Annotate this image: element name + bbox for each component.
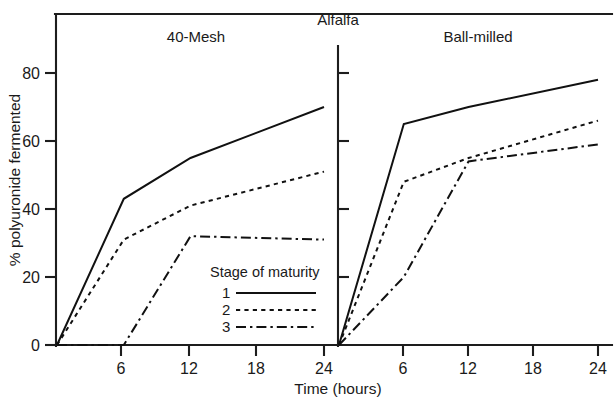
chart-figure: 0 20 40 60 80 6 12 18 24: [0, 0, 614, 397]
left-panel-x-tick-labels: 6 12 18 24: [117, 360, 333, 377]
x-tick-label-6-right: 6: [399, 360, 408, 377]
left-panel-x-ticks: [121, 345, 324, 356]
series-1-40mesh-solid: [57, 107, 324, 345]
y-tick-label-60: 60: [22, 133, 40, 150]
right-panel-series: [339, 80, 598, 345]
panel-title-40-mesh: 40-Mesh: [167, 28, 225, 45]
right-panel-x-ticks: [403, 345, 598, 356]
legend-label-1: 1: [222, 284, 230, 301]
x-tick-label-24-left: 24: [315, 360, 333, 377]
line-chart-svg: 0 20 40 60 80 6 12 18 24: [0, 0, 614, 397]
y-tick-label-20: 20: [22, 269, 40, 286]
series-3-ballmilled-dashdot: [339, 144, 598, 345]
legend-item-1[interactable]: 1: [222, 284, 316, 301]
x-tick-label-6-left: 6: [117, 360, 126, 377]
x-axis-title: Time (hours): [294, 380, 381, 397]
group-title-alfalfa: Alfalfa: [317, 11, 359, 28]
right-panel-y-ticks: [338, 73, 349, 277]
y-tick-label-40: 40: [22, 201, 40, 218]
legend-title: Stage of maturity: [210, 264, 320, 280]
panel-title-ball-milled: Ball-milled: [443, 28, 512, 45]
x-tick-label-24-right: 24: [589, 360, 607, 377]
x-tick-label-12-left: 12: [180, 360, 198, 377]
legend-label-2: 2: [222, 301, 230, 318]
left-panel-y-ticks: [45, 73, 56, 345]
left-panel-series: [57, 107, 324, 345]
legend-item-3[interactable]: 3: [222, 318, 316, 335]
series-2-ballmilled-dotted: [339, 121, 598, 345]
y-tick-label-0: 0: [31, 337, 40, 354]
x-tick-label-18-right: 18: [524, 360, 542, 377]
legend-label-3: 3: [222, 318, 230, 335]
x-tick-label-18-left: 18: [247, 360, 265, 377]
x-tick-label-12-right: 12: [459, 360, 477, 377]
legend-item-2[interactable]: 2: [222, 301, 316, 318]
series-3-40mesh-dashdot: [57, 236, 324, 345]
y-tick-label-80: 80: [22, 65, 40, 82]
left-panel-y-tick-labels: 0 20 40 60 80: [22, 65, 40, 354]
y-axis-title: % polyuronide fermented: [6, 94, 23, 266]
right-panel-x-tick-labels: 6 12 18 24: [399, 360, 607, 377]
legend: Stage of maturity 1 2 3: [210, 264, 320, 335]
